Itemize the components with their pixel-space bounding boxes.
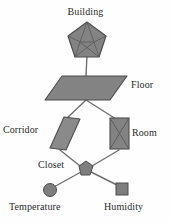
node-corridor-shape[interactable] bbox=[50, 117, 80, 150]
building-pentagon bbox=[68, 22, 106, 57]
diagram-graphics bbox=[0, 0, 171, 222]
node-room-shape[interactable] bbox=[110, 118, 129, 149]
node-floor-shape[interactable] bbox=[45, 76, 127, 100]
node-building-shape[interactable] bbox=[68, 22, 106, 57]
node-temperature-shape[interactable] bbox=[44, 184, 57, 197]
node-label-floor: Floor bbox=[131, 79, 153, 90]
edge-floor-corridor bbox=[66, 100, 86, 119]
node-closet-shape[interactable] bbox=[79, 161, 93, 175]
node-label-building: Building bbox=[0, 6, 171, 17]
node-label-closet: Closet bbox=[38, 159, 64, 170]
node-label-corridor: Corridor bbox=[3, 124, 38, 135]
edge-building-floor bbox=[86, 55, 87, 76]
diagram-canvas: Building Floor Corridor Room Closet Temp… bbox=[0, 0, 171, 222]
corridor-parallelogram bbox=[50, 117, 80, 150]
node-humidity-shape[interactable] bbox=[116, 183, 128, 195]
edge-floor-room bbox=[86, 100, 116, 119]
node-label-room: Room bbox=[132, 127, 157, 138]
closet-pentagon bbox=[79, 161, 93, 175]
floor-parallelogram bbox=[45, 76, 127, 100]
edge-closet-temperature bbox=[52, 172, 81, 188]
humidity-square bbox=[116, 183, 128, 195]
node-label-temperature: Temperature bbox=[9, 201, 60, 212]
node-label-humidity: Humidity bbox=[104, 201, 143, 212]
temperature-circle bbox=[44, 184, 57, 197]
edge-room-closet bbox=[92, 150, 119, 166]
